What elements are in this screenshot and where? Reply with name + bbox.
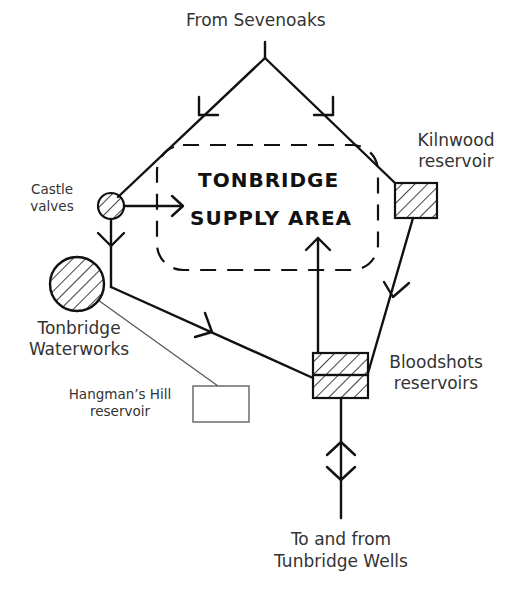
bloodshots-reservoir-lower <box>313 375 368 398</box>
label-waterworks-2: Waterworks <box>23 339 135 359</box>
label-hangmans-hill-2: reservoir <box>55 403 185 419</box>
hangmans-hill-reservoir-symbol <box>193 386 249 422</box>
bloodshots-reservoir-upper <box>313 353 368 375</box>
label-waterworks-1: Tonbridge <box>23 318 135 338</box>
label-bloodshots-1: Bloodshots <box>380 352 492 372</box>
pipe-kilnwood-to-bloodshots <box>368 218 413 373</box>
label-bloodshots-2: reservoirs <box>380 373 492 393</box>
kilnwood-reservoir-symbol <box>395 183 437 218</box>
label-tunbridge-wells-1: To and from <box>271 529 411 549</box>
arrow-down-icon <box>384 282 409 297</box>
label-castle-valves-1: Castle <box>27 181 77 197</box>
supply-area-title-line1: TONBRIDGE <box>198 168 338 192</box>
label-sevenoaks: From Sevenoaks <box>186 10 326 30</box>
water-supply-diagram <box>0 0 525 600</box>
pipe-sevenoaks-to-kilnwood <box>265 58 395 183</box>
label-tunbridge-wells-2: Tunbridge Wells <box>256 551 426 571</box>
label-hangmans-hill-1: Hangman’s Hill <box>55 386 185 402</box>
label-castle-valves-2: valves <box>27 198 77 214</box>
waterworks-symbol <box>50 257 104 311</box>
label-kilnwood-1: Kilnwood <box>406 130 506 150</box>
supply-area-title-line2: SUPPLY AREA <box>190 206 346 230</box>
castle-valves-symbol <box>98 193 124 219</box>
arrow-down-icon <box>314 97 333 115</box>
label-kilnwood-2: reservoir <box>406 151 506 171</box>
